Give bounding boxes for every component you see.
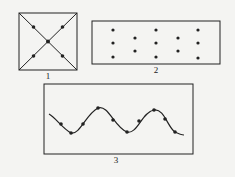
- dot: [137, 119, 141, 123]
- dot: [154, 41, 157, 44]
- dot: [133, 36, 136, 39]
- sine-wave: [49, 108, 184, 135]
- dot: [125, 130, 129, 134]
- figure-2: [92, 21, 220, 64]
- dot: [32, 25, 36, 29]
- dot: [133, 49, 136, 52]
- dot: [111, 41, 114, 44]
- dot: [163, 117, 167, 121]
- figure-3: [44, 84, 193, 154]
- dot: [111, 55, 114, 58]
- dot: [81, 122, 85, 126]
- dot: [111, 28, 114, 31]
- dot: [111, 118, 115, 122]
- dot: [152, 108, 156, 112]
- figure-2-label: 2: [154, 65, 159, 75]
- dot: [196, 41, 199, 44]
- dot: [154, 55, 157, 58]
- dot: [59, 122, 63, 126]
- dot: [61, 25, 65, 29]
- dot: [32, 54, 36, 58]
- figure-1-label: 1: [46, 71, 51, 81]
- dot: [196, 28, 199, 31]
- dot: [61, 54, 65, 58]
- diagram-canvas: [0, 0, 235, 177]
- dot: [176, 49, 179, 52]
- figure-3-frame: [44, 84, 193, 154]
- dot: [96, 106, 100, 110]
- dot: [173, 130, 177, 134]
- dot: [154, 28, 157, 31]
- dot: [176, 36, 179, 39]
- dot: [196, 56, 199, 59]
- figure-1: [19, 13, 77, 70]
- figure-3-label: 3: [114, 155, 119, 165]
- dot: [46, 40, 50, 44]
- dot: [69, 131, 73, 135]
